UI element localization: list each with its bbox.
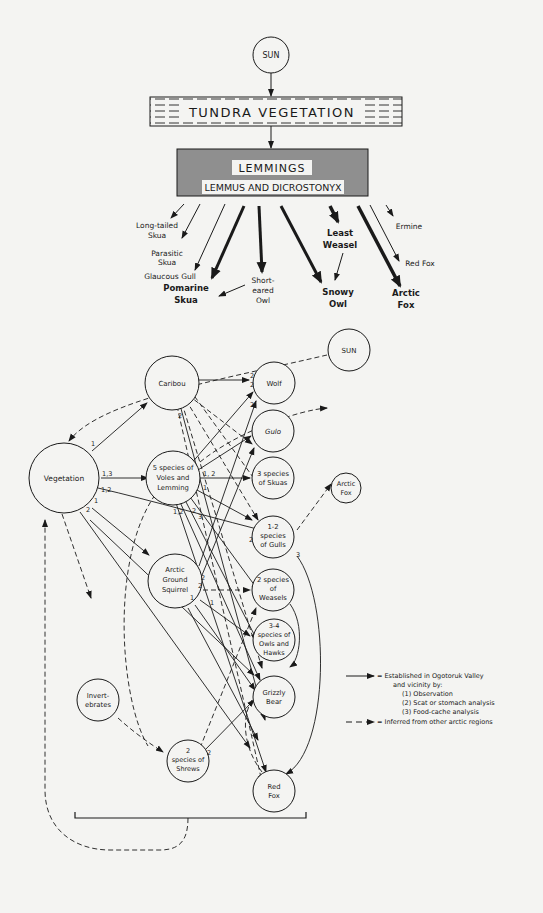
svg-text:1: 1 — [91, 440, 95, 448]
lemmings-subtitle: LEMMUS AND DICROSTONYX — [204, 182, 342, 193]
short-eared-owl-label: Short-earedOwl — [252, 276, 275, 305]
svg-text:2: 2 — [250, 381, 254, 389]
svg-text:3 speciesof Skuas: 3 speciesof Skuas — [257, 470, 289, 487]
svg-text:ArcticGroundSquirrel: ArcticGroundSquirrel — [162, 566, 188, 594]
svg-text:and vicinity by:: and vicinity by: — [393, 681, 442, 689]
legend-solid-text: = Established in Ogotoruk Valley — [377, 672, 484, 680]
svg-text:Wolf: Wolf — [266, 380, 282, 388]
snowy-owl-label: SnowyOwl — [322, 287, 354, 309]
svg-text:1,2: 1,2 — [101, 486, 111, 494]
svg-text:2: 2 — [207, 749, 211, 757]
svg-text:2: 2 — [250, 401, 254, 409]
svg-text:3: 3 — [198, 513, 202, 521]
top-food-chain: SUN TUNDRA VEGETATION LEMMINGS LEMMUS AN… — [136, 37, 435, 310]
svg-text:Invert-ebrates: Invert-ebrates — [85, 692, 111, 709]
sun-label: SUN — [263, 51, 280, 60]
svg-text:1: 1 — [203, 484, 207, 492]
legend-dashed-text: = Inferred from other arctic regions — [377, 718, 493, 726]
svg-text:2: 2 — [250, 372, 254, 380]
pomarine-skua-label: PomarineSkua — [163, 283, 209, 305]
red-fox-node — [253, 770, 295, 812]
long-tailed-skua-label: Long-tailedSkua — [136, 221, 178, 240]
svg-text:1: 1 — [94, 497, 98, 505]
legend: = Established in Ogotoruk Valley and vic… — [346, 672, 495, 726]
svg-text:1,3: 1,3 — [102, 470, 112, 478]
arctic-fox-node — [331, 473, 361, 503]
svg-text:(1) Observation: (1) Observation — [402, 690, 453, 698]
lemmings-title: LEMMINGS — [238, 162, 305, 175]
svg-text:2: 2 — [198, 582, 202, 590]
svg-text:Caribou: Caribou — [158, 380, 185, 388]
svg-text:1,2: 1,2 — [173, 508, 183, 516]
ermine-label: Ermine — [396, 222, 423, 231]
invertebrates-node — [77, 679, 119, 721]
svg-text:2: 2 — [201, 574, 205, 582]
least-weasel-label: LeastWeasel — [323, 228, 357, 250]
svg-text:3: 3 — [296, 551, 300, 559]
svg-text:5 species ofVoles andLemming: 5 species ofVoles andLemming — [153, 464, 194, 492]
svg-text:2: 2 — [249, 536, 253, 544]
svg-text:(3) Food-cache analysis: (3) Food-cache analysis — [402, 708, 479, 716]
bottom-nodes: SUN Vegetation Caribou 5 species ofVoles… — [29, 329, 370, 812]
svg-text:Gulo: Gulo — [265, 428, 281, 436]
svg-text:SUN: SUN — [342, 347, 357, 355]
svg-text:1: 1 — [210, 599, 214, 607]
svg-text:1, 2: 1, 2 — [203, 470, 215, 478]
arctic-fox-label: ArcticFox — [392, 288, 420, 310]
svg-text:(2) Scat or stomach analysis: (2) Scat or stomach analysis — [402, 699, 495, 707]
grizzly-bear-node — [253, 676, 295, 718]
svg-text:1: 1 — [190, 594, 194, 602]
svg-text:2: 2 — [178, 412, 182, 420]
svg-text:RedFox: RedFox — [268, 783, 281, 800]
red-fox-label: Red Fox — [405, 259, 435, 268]
glaucous-gull-label: Glaucous Gull — [144, 272, 196, 281]
parasitic-skua-label: ParasiticSkua — [151, 249, 183, 267]
tundra-vegetation-label: TUNDRA VEGETATION — [188, 105, 355, 120]
svg-text:Vegetation: Vegetation — [44, 474, 85, 483]
svg-text:2: 2 — [86, 506, 90, 514]
svg-text:2: 2 — [192, 507, 196, 515]
skuas-node — [252, 457, 294, 499]
